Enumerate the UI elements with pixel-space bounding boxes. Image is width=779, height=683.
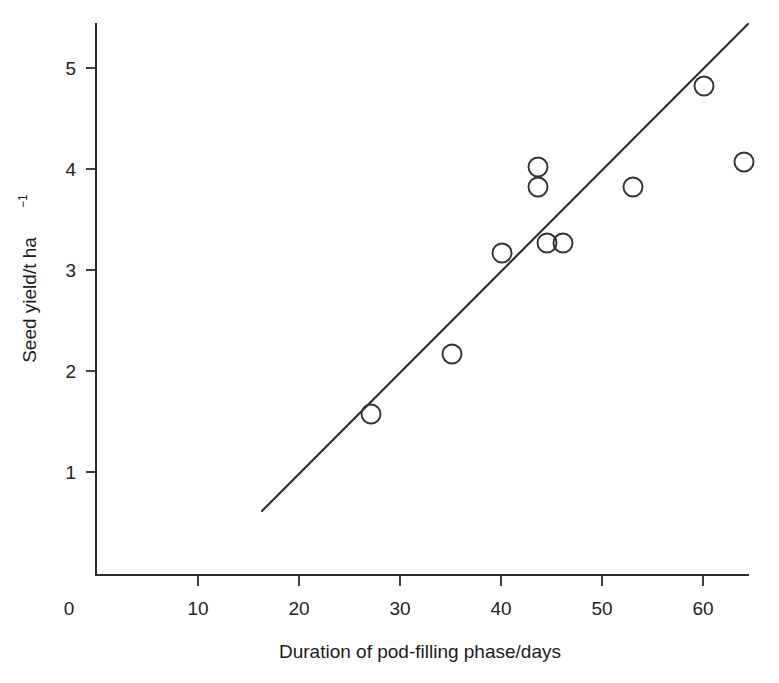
y-tick-label-1: 1 — [65, 462, 76, 483]
data-point — [624, 178, 643, 197]
data-point — [362, 405, 381, 424]
data-point — [529, 178, 548, 197]
y-tick-label-4: 4 — [65, 159, 76, 180]
x-tick-label-50: 50 — [591, 598, 612, 619]
data-point — [443, 345, 462, 364]
y-tick-label-3: 3 — [65, 260, 76, 281]
chart-page: 5 4 3 2 1 0 10 20 30 40 50 60 Seed yie — [0, 0, 779, 683]
x-tick-label-10: 10 — [187, 598, 208, 619]
y-axis-title-superscript: −1 — [16, 194, 30, 208]
x-tick-label-20: 20 — [288, 598, 309, 619]
y-axis-title-group: Seed yield/t ha −1 — [16, 194, 40, 363]
x-tick-label-30: 30 — [389, 598, 410, 619]
y-tick-label-2: 2 — [65, 361, 76, 382]
scatter-plot: 5 4 3 2 1 0 10 20 30 40 50 60 Seed yie — [0, 0, 779, 683]
data-point — [493, 244, 512, 263]
data-point — [735, 153, 754, 172]
data-points-group — [362, 77, 754, 424]
data-point — [529, 158, 548, 177]
x-axis-tick-labels: 0 10 20 30 40 50 60 — [64, 598, 714, 619]
y-axis-title: Seed yield/t ha — [19, 237, 40, 363]
trend-line — [262, 24, 748, 511]
data-point — [695, 77, 714, 96]
y-axis-ticks — [86, 68, 96, 472]
x-tick-label-60: 60 — [692, 598, 713, 619]
x-tick-label-40: 40 — [490, 598, 511, 619]
y-axis-tick-labels: 5 4 3 2 1 — [65, 58, 76, 483]
x-axis-title: Duration of pod-filling phase/days — [279, 641, 561, 662]
x-tick-label-0: 0 — [64, 598, 75, 619]
x-axis-ticks — [198, 575, 703, 586]
y-tick-label-5: 5 — [65, 58, 76, 79]
